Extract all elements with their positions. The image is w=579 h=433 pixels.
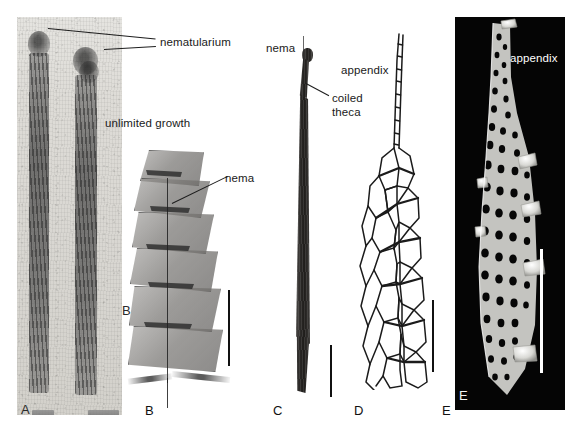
scalebar-c [330,345,332,397]
specimen-shaft-c [296,94,310,344]
panel-b-photograph: B [128,148,233,410]
panel-e-letter-inside: E [459,388,468,403]
scalebar-d [432,300,434,372]
label-appendix-d: appendix [341,64,388,78]
label-nema-b: nema [225,172,254,186]
specimen-base-c [294,336,310,393]
panel-letter-d: D [354,403,363,418]
label-nematularium: nematularium [160,36,231,50]
panel-e-sem-micrograph [455,17,565,410]
panel-b-letter-inside: B [122,303,131,318]
photo-specimen-number-tag [88,410,119,415]
panel-c-photograph [292,48,326,393]
scalebar-e [540,249,543,373]
nema-filament-b [167,178,168,383]
rhabdosome-right [75,75,97,395]
scalebar-b [228,290,230,366]
photo-scale-tag-left [32,410,54,415]
panel-a-letter-inside: A [21,402,30,415]
panel-letter-e: E [442,403,451,418]
panel-d-line-drawing [352,30,438,390]
label-appendix-e: appendix [510,52,557,66]
rhabdosome-left [29,53,49,393]
theca-6 [128,326,223,372]
label-nema-c: nema [266,42,295,56]
label-unlimited-growth: unlimited growth [105,117,190,131]
sicula-spine-right [172,371,230,383]
sem-specimen-svg [455,17,565,410]
virgula-tail [167,378,168,408]
figure-plate: A nematularium unlimited growth B nema n [0,0,579,433]
mesh-drawing-svg [352,30,438,390]
nema-filament-c [303,36,304,64]
specimen-upper-c [299,58,309,98]
panel-letter-b: B [145,403,154,418]
panel-a-photograph: A [17,17,122,415]
panel-letter-c: C [273,403,282,418]
sicula-spine-left [128,373,172,384]
